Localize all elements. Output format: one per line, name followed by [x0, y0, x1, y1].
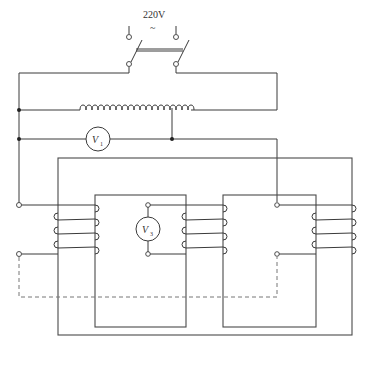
supply-voltage-label: 220V — [143, 9, 166, 20]
svg-text:3: 3 — [150, 231, 153, 237]
circuit-diagram: 220V ~ V 1 — [0, 0, 369, 378]
double-pole-switch[interactable] — [127, 26, 190, 67]
right-supply-wire — [176, 67, 277, 110]
left-supply-wire — [19, 67, 129, 205]
junction-dot — [17, 108, 21, 112]
voltmeter-v1: V 1 — [86, 127, 110, 151]
voltmeter-v3: V 3 — [136, 217, 160, 241]
left-core-window — [95, 195, 186, 327]
left-terminal-top — [17, 203, 22, 208]
outer-core-frame — [58, 158, 352, 335]
right-core-window — [223, 195, 316, 327]
right-secondary-coil — [275, 203, 356, 257]
left-terminal-bottom — [17, 252, 22, 257]
svg-text:1: 1 — [100, 141, 103, 147]
autotransformer-coil — [80, 105, 194, 110]
ac-symbol: ~ — [150, 22, 156, 33]
